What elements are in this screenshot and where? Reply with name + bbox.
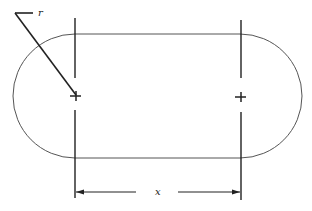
arrow-right-icon [232,190,240,195]
dimension-label-x: x [155,186,161,197]
arrow-left-icon [76,190,84,195]
radius-label: r [38,7,44,18]
left-center-mark-icon [70,91,81,101]
right-center-mark-icon [235,92,246,102]
radius-leader-line [15,13,76,95]
slot-outline [13,34,302,158]
slot-diagram: r x [0,0,312,211]
